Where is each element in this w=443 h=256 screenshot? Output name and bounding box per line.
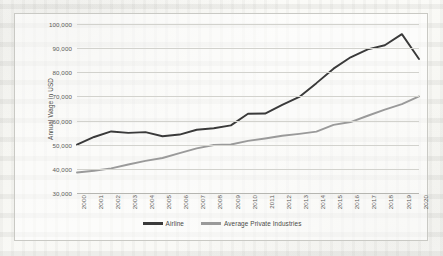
gridline-70000 <box>77 96 419 97</box>
y-tick-label: 80,000 <box>52 69 72 76</box>
x-tick-label: 2011 <box>268 195 275 209</box>
x-tick-label: 2003 <box>131 195 138 209</box>
plot-area <box>77 24 419 193</box>
x-tick-label: 2006 <box>182 195 189 209</box>
x-tick-label: 2000 <box>80 195 87 209</box>
x-tick-label: 2012 <box>285 195 292 209</box>
x-tick-label: 2008 <box>216 195 223 209</box>
legend-label: Average Private Industries <box>224 220 301 227</box>
x-tick-label: 2010 <box>251 195 258 209</box>
gridline-30000 <box>77 193 419 194</box>
series-line-airline <box>77 34 419 145</box>
x-tick-label: 2020 <box>422 195 429 209</box>
x-tick-label: 2015 <box>336 195 343 209</box>
y-tick-label: 90,000 <box>52 45 72 52</box>
legend-swatch-icon <box>143 222 163 224</box>
chart-container: Annual Wage in USD 30,00040,00050,00060,… <box>14 13 428 241</box>
chart-lines <box>77 24 419 193</box>
y-tick-label: 30,000 <box>52 190 72 197</box>
x-tick-label: 2014 <box>319 195 326 209</box>
gridline-90000 <box>77 48 419 49</box>
x-tick-label: 2007 <box>199 195 206 209</box>
series-line-average-private-industries <box>77 96 419 172</box>
legend-item[interactable]: Average Private Industries <box>201 220 301 227</box>
gridline-80000 <box>77 72 419 73</box>
y-tick-label: 60,000 <box>52 117 72 124</box>
x-tick-label: 2018 <box>387 195 394 209</box>
gridline-50000 <box>77 145 419 146</box>
legend-item[interactable]: Airline <box>143 220 184 227</box>
x-tick-label: 2013 <box>302 195 309 209</box>
x-tick-label: 2009 <box>234 195 241 209</box>
gridline-40000 <box>77 169 419 170</box>
x-tick-label: 2005 <box>165 195 172 209</box>
x-tick-label: 2019 <box>405 195 412 209</box>
x-tick-label: 2016 <box>353 195 360 209</box>
y-axis-tick-labels: 30,00040,00050,00060,00070,00080,00090,0… <box>15 24 72 193</box>
x-tick-label: 2002 <box>114 195 121 209</box>
y-tick-label: 40,000 <box>52 165 72 172</box>
chart-legend: AirlineAverage Private Industries <box>15 220 429 227</box>
legend-swatch-icon <box>201 222 221 224</box>
gridline-60000 <box>77 121 419 122</box>
gridline-100000 <box>77 24 419 25</box>
y-tick-label: 100,000 <box>49 21 72 28</box>
x-tick-label: 2004 <box>148 195 155 209</box>
y-tick-label: 50,000 <box>52 141 72 148</box>
x-tick-label: 2017 <box>370 195 377 209</box>
legend-label: Airline <box>166 220 184 227</box>
y-tick-label: 70,000 <box>52 93 72 100</box>
x-tick-label: 2001 <box>97 195 104 209</box>
